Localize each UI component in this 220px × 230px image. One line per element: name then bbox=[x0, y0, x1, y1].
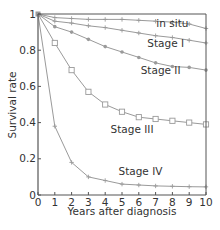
series-label: Stage III bbox=[111, 123, 154, 135]
plus-marker bbox=[53, 19, 57, 23]
series-label: Stage IV bbox=[118, 165, 163, 177]
x-tick-label: 1 bbox=[51, 196, 58, 208]
dot-marker bbox=[53, 25, 57, 29]
plus-marker bbox=[120, 182, 124, 186]
plus-marker bbox=[86, 24, 90, 28]
y-tick-label: 1 bbox=[29, 8, 36, 20]
square-marker bbox=[86, 89, 91, 94]
dot-marker bbox=[70, 30, 74, 34]
square-marker bbox=[153, 116, 158, 121]
plus-marker bbox=[69, 21, 73, 25]
plus-marker bbox=[86, 17, 90, 21]
series-label: Stage II bbox=[141, 64, 181, 76]
square-marker bbox=[119, 109, 124, 114]
plus-marker bbox=[103, 17, 107, 21]
dot-marker bbox=[187, 66, 191, 70]
y-tick-label: 0.6 bbox=[19, 80, 36, 92]
x-tick-label: 10 bbox=[199, 196, 212, 208]
plus-marker bbox=[103, 25, 107, 29]
chart-canvas: 01234567891000.20.40.60.81 in situStage … bbox=[0, 0, 220, 230]
square-marker bbox=[69, 68, 74, 73]
plus-marker bbox=[103, 178, 107, 182]
dot-marker bbox=[87, 38, 91, 42]
square-marker bbox=[187, 120, 192, 125]
dot-marker bbox=[103, 45, 107, 49]
x-axis-label: Years after diagnosis bbox=[67, 205, 177, 217]
annotation-layer: in situStage IStage IIStage IIIStage IV bbox=[111, 17, 189, 177]
plus-marker bbox=[153, 184, 157, 188]
square-marker bbox=[170, 118, 175, 123]
y-tick-label: 0.8 bbox=[19, 44, 36, 56]
plus-marker bbox=[137, 31, 141, 35]
square-marker bbox=[136, 115, 141, 120]
series-label: Stage I bbox=[147, 37, 184, 49]
plus-marker bbox=[120, 28, 124, 32]
survival-chart: 01234567891000.20.40.60.81 in situStage … bbox=[0, 0, 220, 230]
y-axis-label: Survival rate bbox=[6, 72, 18, 139]
y-tick-label: 0 bbox=[29, 189, 36, 201]
y-tick-label: 0.2 bbox=[19, 152, 36, 164]
series-label: in situ bbox=[156, 17, 188, 29]
plus-marker bbox=[170, 184, 174, 188]
square-marker bbox=[52, 40, 57, 45]
x-tick-label: 9 bbox=[186, 196, 193, 208]
plus-marker bbox=[137, 183, 141, 187]
plus-marker bbox=[69, 16, 73, 20]
square-marker bbox=[103, 102, 108, 107]
plus-marker bbox=[137, 18, 141, 22]
plus-marker bbox=[187, 184, 191, 188]
dot-marker bbox=[120, 50, 124, 54]
plus-marker bbox=[187, 38, 191, 42]
y-tick-label: 0.4 bbox=[19, 116, 36, 128]
dot-marker bbox=[137, 56, 141, 60]
plus-marker bbox=[120, 17, 124, 21]
plus-marker bbox=[53, 124, 57, 128]
